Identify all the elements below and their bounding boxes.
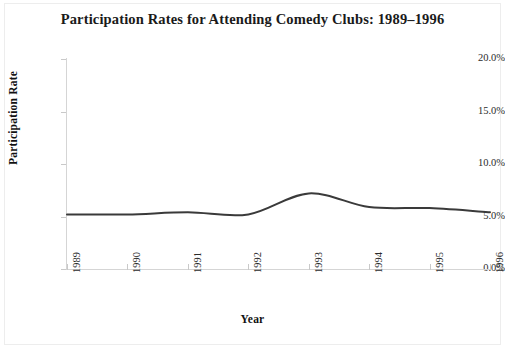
data-series-layer [0,0,505,349]
chart-figure: Participation Rates for Attending Comedy… [0,0,505,349]
series-line-participation-rate [67,193,490,215]
